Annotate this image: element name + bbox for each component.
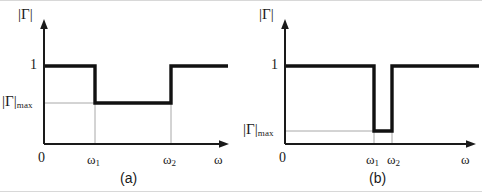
- x-tick-zero-a: 0: [38, 151, 45, 165]
- x-axis-title-a: ω: [214, 153, 223, 166]
- gamma-max-sub-a: max: [17, 100, 33, 110]
- response-curve-a: [45, 66, 228, 103]
- plot-b-svg: [241, 1, 482, 192]
- chart-panel-b: |Γ| 1 |Γ|max 0 ω1 ω2 ω (b): [241, 1, 482, 192]
- omega2-base-a: ω: [163, 152, 172, 167]
- x-tick-omega1-b: ω1: [366, 153, 379, 166]
- figure-frame: |Γ| 1 |Γ|max 0 ω1 ω2 ω (a): [0, 0, 482, 192]
- x-tick-omega2-a: ω2: [163, 153, 176, 166]
- y-axis-arrow-a: [40, 19, 48, 29]
- omega2-base-b: ω: [387, 152, 396, 167]
- omega1-sub-a: 1: [96, 158, 101, 168]
- plot-a-svg: [0, 1, 241, 192]
- omega1-base-b: ω: [366, 152, 375, 167]
- x-tick-zero-b: 0: [279, 151, 286, 165]
- y-tick-gamma-max-a: |Γ|max: [2, 94, 33, 109]
- x-axis-arrow-b: [466, 140, 476, 148]
- gamma-max-base-b: |Γ|: [243, 121, 258, 137]
- caption-b: (b): [369, 171, 386, 185]
- y-tick-one-a: 1: [30, 58, 37, 72]
- y-axis-arrow-b: [281, 19, 289, 29]
- omega2-sub-a: 2: [172, 158, 177, 168]
- gamma-max-base-a: |Γ|: [2, 93, 17, 109]
- y-axis-title-b: |Γ|: [259, 7, 274, 22]
- x-axis-arrow-a: [219, 140, 229, 148]
- omega1-base-a: ω: [87, 152, 96, 167]
- x-tick-omega2-b: ω2: [387, 153, 400, 166]
- response-curve-b: [286, 66, 479, 131]
- y-axis-title-a: |Γ|: [18, 7, 33, 22]
- y-tick-one-b: 1: [271, 58, 278, 72]
- gamma-max-sub-b: max: [258, 128, 274, 138]
- x-tick-omega1-a: ω1: [87, 153, 100, 166]
- omega2-sub-b: 2: [396, 158, 401, 168]
- y-tick-gamma-max-b: |Γ|max: [243, 122, 274, 137]
- x-axis-title-b: ω: [461, 153, 470, 166]
- caption-a: (a): [120, 171, 137, 185]
- omega1-sub-b: 1: [375, 158, 380, 168]
- chart-panel-a: |Γ| 1 |Γ|max 0 ω1 ω2 ω (a): [0, 1, 241, 192]
